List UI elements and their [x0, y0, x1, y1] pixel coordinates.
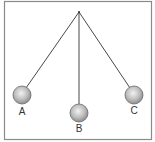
bob-a-label: A [19, 106, 26, 117]
bob-b-ball [70, 104, 88, 122]
bob-a-ball [13, 86, 31, 104]
bob-c-label: C [130, 105, 137, 116]
bob-c-ball [125, 86, 143, 104]
bob-b-label: B [76, 123, 83, 134]
pendulum-diagram: A B C [0, 0, 155, 142]
pivot-point [78, 11, 80, 13]
